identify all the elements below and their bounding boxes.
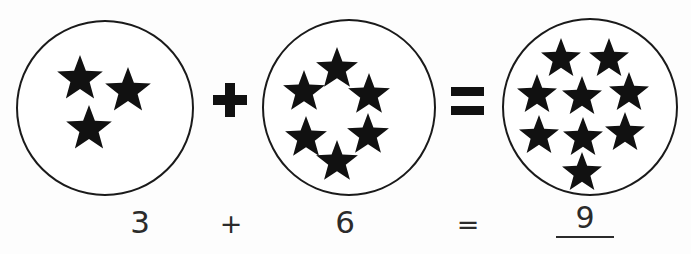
star-icon [604,112,646,154]
group-circle-three [502,18,678,196]
answer-underline [556,236,614,238]
answer-value: 9 [556,203,614,233]
star-icon [608,72,650,114]
equation-plus-operator: + [211,210,251,237]
equation-equals-operator: = [448,211,488,238]
plus-sign-icon [213,83,247,117]
star-icon [65,105,113,153]
star-icon [56,55,104,103]
star-icon [516,74,558,116]
star-icon [347,73,391,117]
star-icon [561,152,603,194]
star-icon [282,70,326,114]
addend-one-number: 3 [120,207,160,238]
worksheet-canvas: 3 + 6 = 9 [0,0,691,254]
addend-two-number: 6 [325,207,365,238]
equals-sign-icon [451,87,484,115]
star-icon [518,115,560,157]
star-icon [561,76,603,118]
answer-field[interactable]: 9 [556,203,614,238]
group-circle-one [16,20,194,196]
group-circle-two [262,19,436,196]
star-icon [315,140,359,184]
